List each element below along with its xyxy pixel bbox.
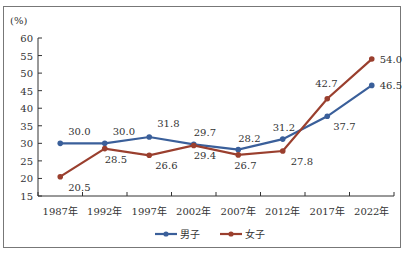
data-point: [324, 113, 330, 119]
data-point: [102, 146, 108, 152]
data-label: 26.7: [234, 160, 256, 171]
y-tick-label: 60: [20, 33, 33, 44]
data-point: [369, 83, 375, 89]
x-tick-label: 2012年: [265, 205, 300, 217]
x-tick-label: 1992年: [87, 205, 122, 217]
y-tick-label: 15: [20, 191, 33, 202]
y-tick-label: 50: [20, 68, 33, 79]
data-label: 37.7: [333, 121, 355, 132]
line-chart: (%)152025303540455055601987年1992年1997年20…: [0, 0, 405, 254]
legend-label: 女子: [245, 228, 265, 240]
data-point: [235, 152, 241, 158]
x-tick-label: 2022年: [354, 205, 389, 217]
data-label: 20.5: [68, 182, 90, 193]
data-label: 31.2: [273, 122, 295, 133]
data-point: [191, 143, 197, 149]
y-tick-label: 25: [20, 156, 33, 167]
y-tick-label: 40: [20, 103, 33, 114]
data-point: [280, 136, 286, 142]
x-tick-label: 1987年: [43, 205, 78, 217]
legend-marker: [163, 231, 168, 236]
y-tick-label: 30: [20, 138, 33, 149]
data-label: 54.0: [380, 54, 402, 65]
data-label: 46.5: [380, 80, 402, 91]
data-point: [146, 152, 152, 158]
data-label: 42.7: [315, 78, 337, 89]
data-label: 30.0: [113, 126, 135, 137]
data-label: 30.0: [68, 126, 90, 137]
data-label: 26.6: [155, 160, 177, 171]
y-tick-label: 55: [20, 51, 33, 62]
y-tick-label: 45: [20, 86, 33, 97]
data-point: [324, 96, 330, 102]
x-tick-label: 2002年: [176, 205, 211, 217]
x-tick-label: 2007年: [221, 205, 256, 217]
x-tick-label: 1997年: [132, 205, 167, 217]
data-point: [102, 141, 108, 147]
data-label: 27.8: [291, 156, 313, 167]
data-point: [369, 56, 375, 62]
data-point: [146, 134, 152, 140]
data-point: [57, 141, 63, 147]
y-tick-label: 35: [20, 121, 33, 132]
legend-label: 男子: [180, 229, 200, 240]
data-point: [235, 147, 241, 153]
data-label: 28.2: [238, 133, 260, 144]
legend-marker: [228, 231, 233, 236]
data-label: 29.7: [194, 127, 216, 138]
y-tick-label: 20: [20, 173, 33, 184]
y-axis-label: (%): [10, 15, 27, 26]
data-label: 31.8: [157, 118, 179, 129]
data-point: [280, 148, 286, 154]
data-label: 29.4: [194, 150, 216, 161]
data-point: [57, 174, 63, 180]
data-label: 28.5: [105, 154, 127, 165]
x-tick-label: 2017年: [310, 205, 345, 217]
